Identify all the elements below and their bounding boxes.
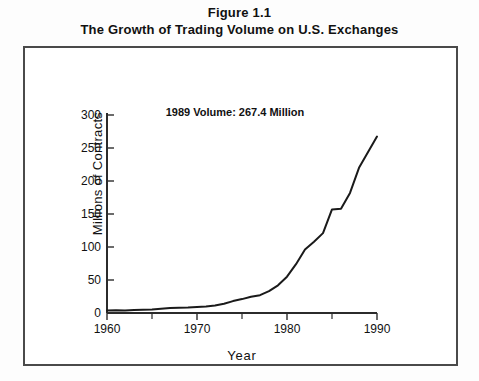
figure-page: Figure 1.1 The Growth of Trading Volume …	[0, 0, 479, 381]
y-tick-label-50: 50	[88, 273, 102, 287]
data-series-line	[107, 137, 377, 311]
x-axis-ticks	[107, 313, 377, 320]
x-tick-label-1980: 1980	[274, 322, 301, 336]
x-tick-label-1970: 1970	[184, 322, 211, 336]
volume-annotation: 1989 Volume: 267.4 Million	[166, 106, 305, 118]
y-axis-ticks	[107, 115, 114, 313]
x-tick-label-1960: 1960	[94, 322, 121, 336]
y-axis-label: Millions of Contracts	[90, 84, 105, 264]
figure-title-block: Figure 1.1 The Growth of Trading Volume …	[0, 4, 479, 38]
x-axis-label: Year	[227, 348, 256, 363]
figure-caption: The Growth of Trading Volume on U.S. Exc…	[0, 21, 479, 38]
figure-frame: Millions of Contracts 0	[23, 46, 458, 366]
y-tick-label-0: 0	[94, 306, 101, 320]
x-tick-label-1990: 1990	[364, 322, 391, 336]
figure-number: Figure 1.1	[0, 4, 479, 21]
chart-plot-area: Millions of Contracts 0	[25, 48, 460, 368]
